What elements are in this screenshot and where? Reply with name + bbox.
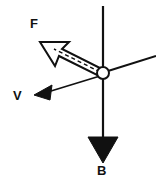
- b-field-arrowhead-icon: [88, 137, 118, 163]
- force-hollow-arrow-icon: [40, 42, 104, 77]
- velocity-vector-label: V: [13, 89, 22, 102]
- auxiliary-line: [108, 56, 156, 71]
- magnetic-field-vector-label: B: [97, 164, 106, 177]
- force-vector-label: F: [30, 17, 38, 30]
- origin-circle-marker: [97, 67, 109, 79]
- velocity-arrowhead-icon: [34, 85, 52, 100]
- vector-diagram-canvas: [0, 0, 156, 187]
- vector-diagram-figure: F V B: [0, 0, 156, 187]
- velocity-line: [51, 76, 100, 91]
